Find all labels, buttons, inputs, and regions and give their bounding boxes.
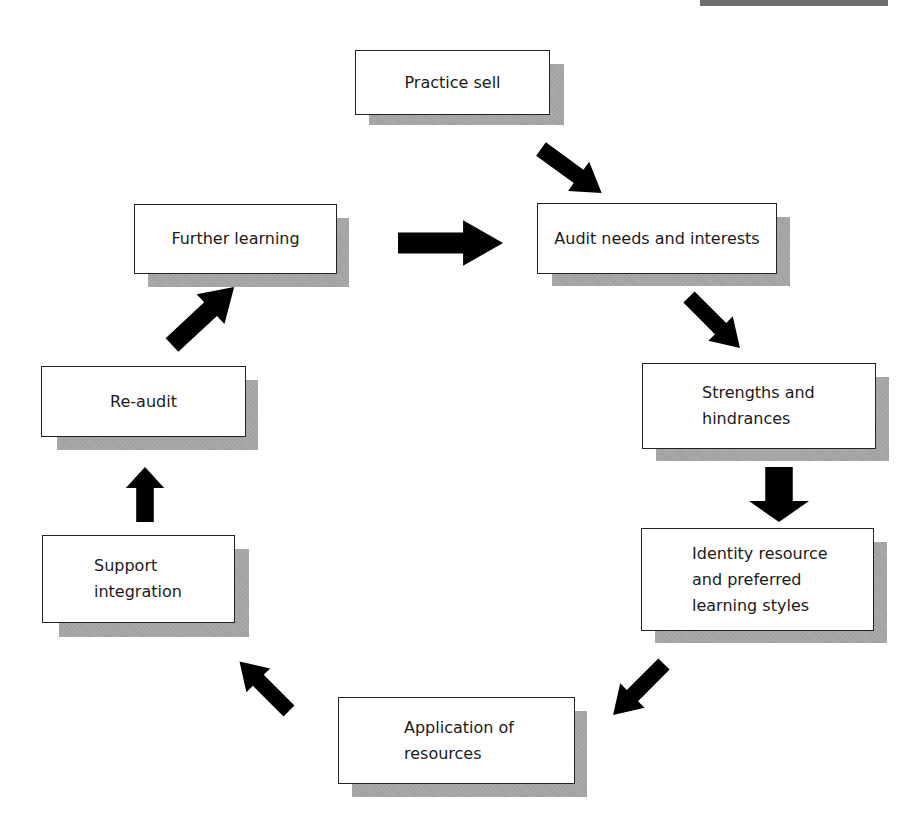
arrow-right-icon (398, 220, 503, 266)
arrow-up-right-icon (158, 272, 248, 360)
arrow-down-right-icon (530, 134, 612, 207)
arrow-up-left-icon (228, 650, 301, 723)
arrow-down-icon (749, 467, 809, 522)
arrows-layer (0, 0, 923, 833)
arrow-down-right-icon (677, 285, 752, 360)
arrow-up-icon (126, 467, 164, 522)
arrow-down-left-icon (601, 652, 676, 727)
